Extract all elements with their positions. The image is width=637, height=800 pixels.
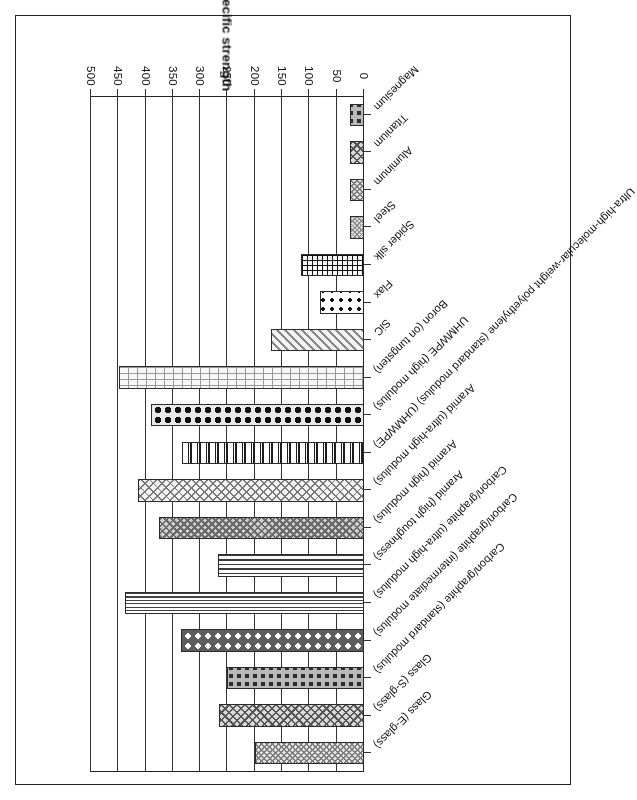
x-tick-label: 150: [276, 56, 288, 96]
category-tick: [364, 189, 371, 190]
bar: [219, 704, 364, 727]
category-tick: [364, 489, 371, 490]
bar: [125, 592, 364, 615]
rotated-figure-content: 500450400350300250200150100500 Glass (E-…: [16, 16, 572, 786]
category-label: Magnesium: [372, 64, 421, 113]
gridline: [145, 96, 146, 772]
category-label: SiC: [372, 317, 393, 338]
category-tick: [364, 114, 371, 115]
category-tick: [364, 602, 371, 603]
gridline: [117, 96, 118, 772]
bar: [218, 554, 364, 577]
category-tick: [364, 715, 371, 716]
category-tick: [364, 339, 371, 340]
category-tick: [364, 564, 371, 565]
category-label: Titanium: [372, 112, 411, 151]
bar: [301, 254, 364, 277]
axis-title: Specific strength: [220, 0, 235, 92]
category-tick: [364, 151, 371, 152]
gridline: [172, 96, 173, 772]
bar: [182, 442, 364, 465]
x-tick-label: 400: [140, 56, 152, 96]
bar: [350, 141, 364, 164]
category-label: Carbon/graphite (intermediate modulus): [372, 490, 520, 638]
category-tick: [364, 752, 371, 753]
gridline: [90, 96, 91, 772]
category-tick: [364, 226, 371, 227]
category-tick: [364, 414, 371, 415]
bar: [350, 216, 364, 239]
category-tick: [364, 452, 371, 453]
bar: [151, 404, 364, 427]
category-tick: [364, 527, 371, 528]
bar: [255, 742, 364, 765]
x-tick-label: 0: [358, 56, 370, 96]
x-tick-label: 200: [249, 56, 261, 96]
x-tick-label: 100: [303, 56, 315, 96]
bar: [138, 479, 364, 502]
category-tick: [364, 264, 371, 265]
x-tick-label: 300: [194, 56, 206, 96]
category-tick: [364, 677, 371, 678]
bar: [228, 667, 365, 690]
category-tick: [364, 640, 371, 641]
x-tick-label: 350: [167, 56, 179, 96]
x-tick-label: 450: [112, 56, 124, 96]
bar: [271, 329, 364, 352]
category-label: Flax: [372, 277, 395, 300]
bar: [159, 517, 364, 540]
x-tick-label: 50: [331, 56, 343, 96]
gridline: [199, 96, 200, 772]
bar: [320, 291, 364, 314]
bar: [350, 104, 364, 127]
category-label: Steel: [372, 199, 399, 226]
bar: [350, 179, 364, 202]
bar: [181, 629, 364, 652]
figure-frame: 500450400350300250200150100500 Glass (E-…: [15, 15, 571, 785]
x-tick-label: 500: [85, 56, 97, 96]
category-tick: [364, 377, 371, 378]
category-label: Aluminum: [372, 144, 416, 188]
bar: [119, 366, 364, 389]
category-tick: [364, 302, 371, 303]
category-label: Spider silk: [372, 218, 417, 263]
